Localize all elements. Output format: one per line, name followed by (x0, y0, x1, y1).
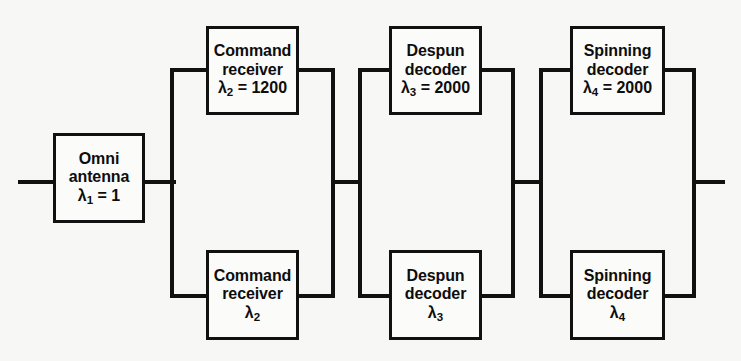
block-spinning-decoder-bottom-line2: decoder (587, 285, 649, 304)
block-command-receiver-bottom-line2: receiver (222, 285, 283, 304)
block-spinning-decoder-bottom: Spinning decoder λ4 (570, 250, 665, 340)
block-command-receiver-top-lambda: λ2 = 1200 (218, 79, 287, 99)
wire-split3-bottom-arm (358, 294, 392, 298)
block-command-receiver-bottom: Command receiver λ2 (206, 250, 299, 340)
block-omni-antenna-line1: Omni (79, 150, 120, 169)
wire-split4-top-arm (539, 68, 573, 72)
wire-output-line (692, 180, 725, 184)
wire-split-bus-stage2 (170, 68, 174, 298)
block-command-receiver-top-line2: receiver (222, 61, 283, 80)
block-spinning-decoder-top-line1: Spinning (584, 42, 652, 61)
block-despun-decoder-bottom-line1: Despun (406, 267, 464, 286)
wire-split-bus-stage3 (358, 68, 362, 298)
wire-merge3-top-arm (480, 68, 515, 72)
wire-split2-bottom-arm (170, 294, 210, 298)
block-spinning-decoder-bottom-lambda: λ4 (610, 304, 625, 324)
block-omni-antenna-line2: antenna (69, 168, 130, 187)
block-command-receiver-bottom-lambda: λ2 (245, 304, 260, 324)
block-despun-decoder-top-line2: decoder (405, 61, 467, 80)
reliability-block-diagram: Omni antenna λ1 = 1 Command receiver λ2 … (0, 0, 741, 361)
wire-merge2-top-arm (297, 68, 335, 72)
block-despun-decoder-top-lambda: λ3 = 2000 (401, 79, 470, 99)
wire-merge4-bottom-arm (662, 294, 696, 298)
block-spinning-decoder-top-lambda: λ4 = 2000 (583, 79, 652, 99)
block-spinning-decoder-top: Spinning decoder λ4 = 2000 (570, 26, 665, 115)
wire-merge2-bottom-arm (297, 294, 335, 298)
block-despun-decoder-bottom-line2: decoder (405, 285, 467, 304)
block-despun-decoder-bottom: Despun decoder λ3 (389, 250, 482, 340)
block-spinning-decoder-bottom-line1: Spinning (584, 267, 652, 286)
block-command-receiver-bottom-line1: Command (214, 267, 292, 286)
block-omni-antenna: Omni antenna λ1 = 1 (53, 133, 145, 223)
wire-split4-bottom-arm (539, 294, 573, 298)
block-despun-decoder-top: Despun decoder λ3 = 2000 (389, 26, 482, 115)
block-despun-decoder-top-line1: Despun (406, 42, 464, 61)
block-command-receiver-top-line1: Command (214, 42, 292, 61)
wire-input-line (18, 180, 55, 184)
block-omni-antenna-lambda: λ1 = 1 (78, 187, 120, 207)
wire-split2-top-arm (170, 68, 210, 72)
wire-merge3-bottom-arm (480, 294, 515, 298)
block-despun-decoder-bottom-lambda: λ3 (428, 304, 443, 324)
block-command-receiver-top: Command receiver λ2 = 1200 (206, 26, 299, 115)
wire-split3-top-arm (358, 68, 392, 72)
block-spinning-decoder-top-line2: decoder (587, 61, 649, 80)
wire-merge4-top-arm (662, 68, 696, 72)
wire-split-bus-stage4 (539, 68, 543, 298)
